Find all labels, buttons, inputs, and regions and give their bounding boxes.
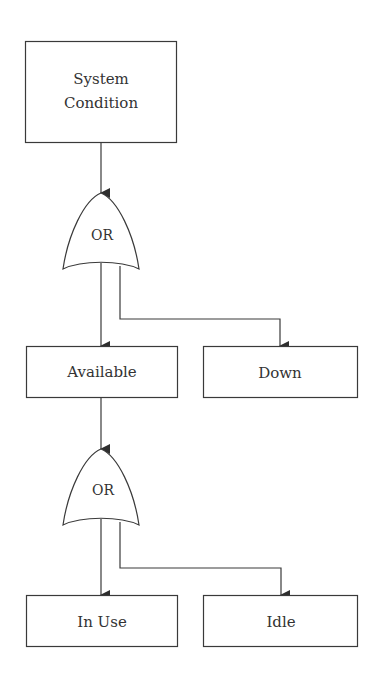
fault-tree-diagram: System Condition OR Available Down OR In… (0, 0, 377, 677)
node-system-condition: System Condition (26, 42, 177, 143)
edge-gate-2-to-idle (120, 522, 281, 595)
or-gate-2: OR (63, 449, 139, 525)
node-box (26, 42, 177, 143)
gate-label: OR (92, 482, 114, 498)
node-available: Available (27, 347, 178, 398)
node-down: Down (204, 347, 358, 398)
node-idle: Idle (204, 596, 358, 647)
node-label: In Use (77, 613, 127, 631)
node-in-use: In Use (27, 596, 178, 647)
node-label: Available (66, 363, 137, 381)
node-label-line1: System (73, 70, 129, 88)
node-label: Idle (266, 613, 295, 631)
edge-gate-1-to-down (120, 266, 280, 346)
or-gate-1: OR (63, 193, 139, 269)
gate-label: OR (91, 227, 113, 243)
node-label-line2: Condition (64, 94, 138, 112)
node-label: Down (258, 364, 302, 382)
